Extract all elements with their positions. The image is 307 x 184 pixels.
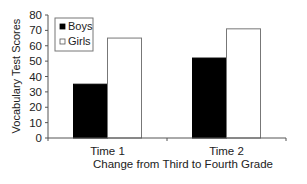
y-tick-label: 70 bbox=[29, 24, 42, 36]
y-axis-label: Vocabulary Test Scores bbox=[10, 18, 22, 133]
bar-boys-time-2 bbox=[193, 58, 227, 138]
bar-girls-time-2 bbox=[227, 29, 261, 138]
x-tick-label: Time 2 bbox=[209, 145, 244, 157]
bar-boys-time-1 bbox=[74, 84, 108, 138]
y-tick-label: 60 bbox=[29, 40, 42, 52]
y-tick-label: 0 bbox=[36, 132, 42, 144]
bar-girls-time-1 bbox=[108, 38, 142, 138]
x-axis: Time 1Time 2 bbox=[48, 138, 286, 157]
chart-canvas: Vocabulary Test Scores 01020304050607080… bbox=[0, 0, 307, 184]
x-tick-label: Time 1 bbox=[90, 145, 125, 157]
y-axis: 01020304050607080 bbox=[29, 9, 48, 144]
legend-swatch-girls bbox=[60, 39, 65, 44]
y-tick-label: 10 bbox=[29, 117, 42, 129]
y-tick-label: 30 bbox=[29, 86, 42, 98]
x-axis-label: Change from Third to Fourth Grade bbox=[93, 158, 273, 170]
bar-chart: Vocabulary Test Scores 01020304050607080… bbox=[0, 0, 307, 184]
y-tick-label: 20 bbox=[29, 101, 42, 113]
y-tick-label: 80 bbox=[29, 9, 42, 21]
y-tick-label: 50 bbox=[29, 55, 42, 67]
bars bbox=[74, 29, 261, 138]
legend-label-boys: Boys bbox=[68, 20, 93, 32]
legend-swatch-boys bbox=[60, 24, 65, 29]
y-tick-label: 40 bbox=[29, 71, 42, 83]
legend: BoysGirls bbox=[55, 18, 93, 51]
legend-label-girls: Girls bbox=[68, 35, 91, 47]
